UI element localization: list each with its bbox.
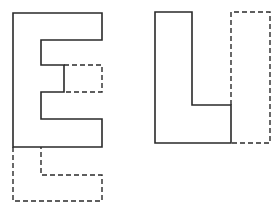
letter-e-group — [13, 13, 102, 201]
diagram-svg — [0, 0, 279, 212]
e-missing-middle-piece — [64, 65, 102, 92]
e-missing-bottom-l-piece — [13, 147, 102, 201]
l-missing-bar-piece — [231, 12, 270, 143]
letter-l-group — [155, 12, 270, 143]
letter-l-outline — [155, 12, 231, 143]
letter-puzzle-diagram — [0, 0, 279, 212]
letter-e-outline — [13, 13, 102, 147]
